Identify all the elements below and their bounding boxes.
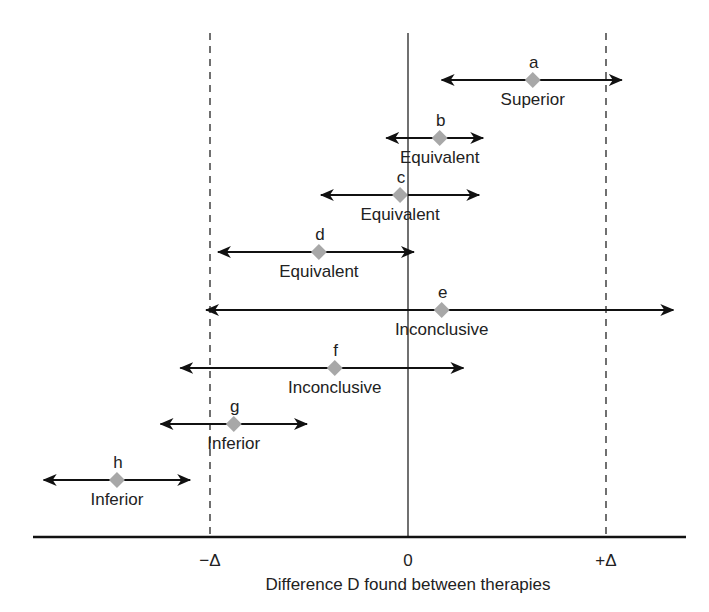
interval-conclusion-label: Inconclusive: [288, 378, 382, 397]
interval-g: gInferior: [161, 397, 308, 453]
estimate-diamond-icon: [392, 187, 408, 203]
interval-id-label: a: [529, 53, 539, 72]
interval-id-label: d: [315, 225, 324, 244]
interval-conclusion-label: Equivalent: [360, 205, 440, 224]
interval-e: eInconclusive: [206, 283, 673, 339]
interval-a: aSuperior: [442, 53, 622, 109]
x-axis-ticks: −Δ0+Δ: [199, 551, 616, 570]
interval-conclusion-label: Equivalent: [279, 262, 359, 281]
estimate-diamond-icon: [327, 360, 343, 376]
estimate-diamond-icon: [109, 472, 125, 488]
tick-label: +Δ: [595, 551, 616, 570]
interval-id-label: e: [438, 283, 447, 302]
interval-c: cEquivalent: [321, 168, 479, 224]
interval-id-label: g: [230, 397, 239, 416]
x-axis-label: Difference D found between therapies: [265, 575, 550, 594]
interval-conclusion-label: Inconclusive: [395, 320, 489, 339]
interval-id-label: b: [436, 111, 445, 130]
interval-conclusion-label: Inferior: [90, 490, 143, 509]
interval-f: fInconclusive: [180, 341, 463, 397]
tick-label: −Δ: [199, 551, 220, 570]
estimate-diamond-icon: [525, 72, 541, 88]
intervals: aSuperiorbEquivalentcEquivalentdEquivale…: [44, 53, 674, 509]
interval-id-label: c: [397, 168, 406, 187]
estimate-diamond-icon: [311, 244, 327, 260]
interval-conclusion-label: Equivalent: [400, 148, 480, 167]
interval-conclusion-label: Superior: [501, 90, 566, 109]
equivalence-interval-chart: −Δ0+Δ Difference D found between therapi…: [0, 0, 709, 612]
interval-id-label: h: [113, 453, 122, 472]
interval-d: dEquivalent: [218, 225, 414, 281]
interval-id-label: f: [333, 341, 338, 360]
estimate-diamond-icon: [226, 416, 242, 432]
estimate-diamond-icon: [432, 130, 448, 146]
interval-h: hInferior: [44, 453, 191, 509]
estimate-diamond-icon: [434, 302, 450, 318]
interval-b: bEquivalent: [386, 111, 483, 167]
interval-conclusion-label: Inferior: [207, 434, 260, 453]
tick-label: 0: [403, 551, 412, 570]
